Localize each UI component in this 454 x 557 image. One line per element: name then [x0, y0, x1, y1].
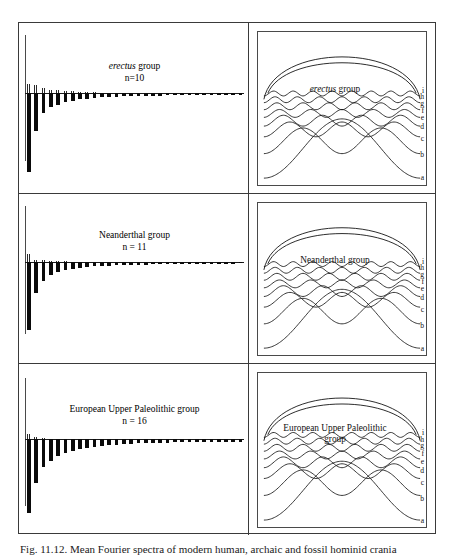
harmonics-plot-area: ihgfedcbaerectus group [257, 31, 427, 186]
harmonics-chart-european-upper-paleolithic: ihgfedcbaEuropean Upper Paleolithicgroup [248, 364, 435, 535]
spectrum-bar-negative [42, 439, 46, 467]
spectrum-bar-negative [158, 262, 162, 264]
harmonics-curves [258, 373, 426, 527]
spectrum-bar-negative [56, 262, 60, 272]
harmonic-label-a: a [421, 174, 424, 182]
spectrum-bar-negative [49, 262, 53, 275]
spectrum-bar-negative [151, 262, 155, 264]
spectrum-bar-negative [137, 93, 141, 96]
spectrum-bar-negative [100, 262, 104, 266]
spectrum-bar-negative [202, 93, 206, 95]
harmonic-curve-g [264, 97, 420, 103]
spectrum-bar-negative [78, 439, 82, 449]
harmonic-curve-a [264, 461, 420, 520]
spectrum-bar-positive [42, 260, 46, 262]
spectrum-bar-negative [93, 439, 97, 447]
spectrum-bar-negative [34, 262, 38, 293]
harmonic-curve-b [264, 298, 420, 323]
harmonic-curve-c [264, 292, 420, 307]
panel-erectus: erectus groupn=10ihgfedcbaerectus group [19, 23, 435, 193]
spectrum-bar-negative [144, 93, 148, 96]
spectrum-bar-negative [180, 262, 184, 264]
spectrum-bar-negative [107, 439, 111, 445]
spectrum-bar-positive [34, 85, 38, 93]
spectrum-bar-negative [93, 262, 97, 266]
harmonic-label-c: c [421, 479, 424, 487]
spectrum-bar-negative [239, 93, 243, 95]
spectrum-title-erectus: erectus groupn=10 [19, 61, 250, 84]
spectrum-bar-negative [49, 93, 53, 107]
harmonics-title-european-upper-paleolithic: European Upper Paleolithicgroup [270, 423, 400, 444]
harmonic-label-e: e [421, 114, 424, 122]
harmonics-curves [258, 32, 426, 185]
spectrum-bar-negative [115, 439, 119, 445]
spectrum-bar-negative [34, 439, 38, 483]
spectrum-title-text: Neanderthal group [99, 230, 170, 240]
spectrum-bar-negative [85, 439, 89, 448]
spectrum-bar-negative [239, 439, 243, 442]
spectrum-title-european-upper-paleolithic: European Upper Paleolithic groupn = 16 [19, 404, 250, 427]
spectrum-bar-negative [173, 439, 177, 442]
spectrum-bar-negative [195, 93, 199, 95]
spectrum-bar-negative [115, 93, 119, 97]
spectrum-bar-negative [34, 93, 38, 131]
harmonic-curve-b [264, 470, 420, 496]
spectrum-title-text: group [136, 61, 161, 71]
spectrum-bar-negative [78, 262, 82, 268]
harmonic-curve-f [264, 273, 420, 280]
spectrum-bar-negative [166, 439, 170, 443]
spectrum-bar-negative [137, 439, 141, 443]
panel-neanderthal: Neanderthal groupn = 11ihgfedcbaNeandert… [19, 193, 435, 363]
spectrum-bar-negative [100, 439, 104, 446]
spectrum-bar-negative [224, 439, 228, 442]
spectrum-y-axis [25, 35, 26, 161]
spectrum-sample-size: n = 16 [19, 416, 250, 428]
spectrum-bar-negative [224, 262, 228, 264]
spectrum-bar-negative [151, 93, 155, 96]
spectrum-title-text: European Upper Paleolithic group [69, 404, 199, 414]
spectrum-bar-negative [180, 93, 184, 95]
spectrum-bar-negative [239, 262, 243, 263]
harmonic-curve-c [264, 464, 420, 479]
harmonics-title-line2: group [270, 434, 400, 445]
spectrum-bar-positive [85, 92, 89, 93]
spectrum-bar-negative [173, 262, 177, 264]
spectrum-bar-negative [122, 262, 126, 265]
spectrum-bar-negative [144, 262, 148, 265]
harmonic-label-d: d [420, 294, 424, 302]
spectrum-bar-negative [188, 93, 192, 95]
spectrum-bar-negative [217, 93, 221, 95]
spectrum-bar-negative [64, 439, 68, 453]
harmonic-curve-d [264, 457, 420, 468]
spectrum-bar-positive [42, 88, 46, 93]
spectrum-bar-negative [100, 93, 104, 97]
spectrum-bar-negative [158, 439, 162, 443]
spectrum-bar-negative [166, 262, 170, 264]
spectrum-bar-positive [27, 254, 31, 262]
spectrum-bar-negative [158, 93, 162, 96]
spectrum-bar-negative [93, 93, 97, 98]
harmonic-label-d: d [420, 123, 424, 131]
spectrum-bar-negative [64, 262, 68, 270]
spectrum-bar-negative [202, 262, 206, 264]
harmonics-title-text: European Upper Paleolithic [283, 423, 386, 433]
spectrum-bar-negative [85, 93, 89, 99]
spectrum-bar-negative [129, 439, 133, 444]
harmonics-title-genus: erectus [310, 84, 337, 94]
spectrum-bar-negative [42, 93, 46, 113]
figure-caption: Fig. 11.12. Mean Fourier spectra of mode… [20, 543, 440, 557]
spectrum-bar-negative [71, 262, 75, 269]
spectrum-bar-negative [56, 439, 60, 456]
harmonic-curve-b [264, 128, 420, 154]
spectrum-bar-negative [210, 93, 214, 95]
panel-european-upper-paleolithic: European Upper Paleolithic groupn = 16ih… [19, 363, 435, 535]
spectrum-bar-negative [231, 93, 235, 95]
spectrum-bar-negative [122, 93, 126, 96]
spectrum-bar-negative [231, 262, 235, 264]
spectrum-bar-negative [129, 262, 133, 265]
harmonic-label-b: b [420, 495, 424, 503]
spectrum-bar-negative [217, 439, 221, 442]
harmonics-plot-area: ihgfedcbaEuropean Upper Paleolithicgroup [257, 372, 427, 528]
spectrum-bar-negative [166, 93, 170, 95]
spectrum-bar-negative [173, 93, 177, 95]
